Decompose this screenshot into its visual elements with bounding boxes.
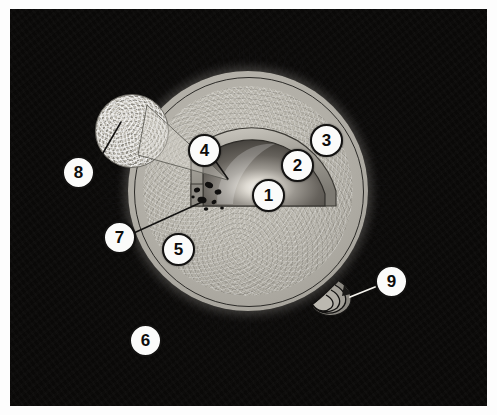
callout-label-5: 5 [174,241,183,258]
micrograph-plate: 123456789 [10,9,487,406]
callout-3[interactable]: 3 [310,124,343,157]
callout-5[interactable]: 5 [162,233,195,266]
diagram-overlay [10,9,487,406]
callout-8[interactable]: 8 [62,156,95,189]
leader-line-7 [125,202,202,237]
callout-2[interactable]: 2 [281,149,314,182]
callout-label-7: 7 [115,229,124,246]
callout-label-6: 6 [141,332,150,349]
sperm-with-flagellum [313,281,351,316]
callout-1[interactable]: 1 [252,179,285,212]
leader-line-8 [92,122,121,172]
callout-label-3: 3 [322,132,331,149]
callout-label-2: 2 [293,157,302,174]
cortical-granules-cluster [191,181,224,211]
callout-label-4: 4 [200,142,209,159]
callout-label-8: 8 [74,164,83,181]
callout-6[interactable]: 6 [129,324,162,357]
callout-9[interactable]: 9 [375,265,408,298]
figure-plate-frame: 123456789 [0,0,497,415]
callout-label-1: 1 [264,187,273,204]
callout-label-9: 9 [387,273,396,290]
callout-4[interactable]: 4 [188,134,221,167]
callout-7[interactable]: 7 [103,221,136,254]
